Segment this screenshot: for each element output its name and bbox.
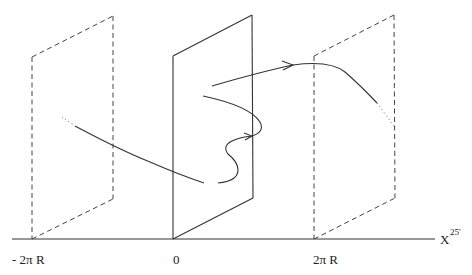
axis-label: X bbox=[440, 232, 450, 247]
axis-label-superscript: 25' bbox=[450, 227, 461, 237]
tick-label-zero: 0 bbox=[173, 252, 180, 267]
tick-label-minus-2pi-r: - 2π R bbox=[12, 252, 45, 267]
compactification-diagram: - 2π R 0 2π R X 25' bbox=[0, 0, 472, 275]
right-image-plane bbox=[314, 15, 395, 239]
tick-label-plus-2pi-r: 2π R bbox=[313, 252, 338, 267]
center-plane bbox=[173, 15, 253, 239]
arrowhead-icon bbox=[282, 61, 293, 70]
string-path-right bbox=[212, 61, 395, 128]
string-path-left bbox=[62, 117, 204, 183]
left-image-plane bbox=[32, 16, 113, 239]
